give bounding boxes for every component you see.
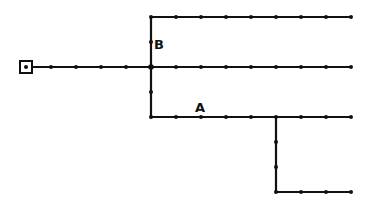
node-dot (274, 115, 278, 119)
node-dot (249, 15, 253, 19)
node-dot (199, 65, 203, 69)
node-dot (149, 90, 153, 94)
node-dot (324, 65, 328, 69)
node-dot (74, 65, 78, 69)
node-dot (274, 190, 278, 194)
node-dot (174, 65, 178, 69)
junction-node (148, 64, 154, 70)
node-dot (99, 65, 103, 69)
node-dot (349, 115, 353, 119)
start-dot (24, 65, 28, 69)
node-dot (274, 65, 278, 69)
node-dot (49, 65, 53, 69)
node-dot (224, 15, 228, 19)
node-dot (274, 140, 278, 144)
node-dot (199, 115, 203, 119)
node-dot (324, 15, 328, 19)
node-dot (249, 65, 253, 69)
node-dot (324, 190, 328, 194)
node-dot (349, 65, 353, 69)
node-dot (274, 165, 278, 169)
node-dot (299, 65, 303, 69)
nodes (24, 15, 353, 194)
node-dot (149, 115, 153, 119)
node-dot (324, 115, 328, 119)
node-dot (224, 65, 228, 69)
node-dot (199, 15, 203, 19)
start-marker (20, 61, 32, 73)
node-dot (349, 190, 353, 194)
node-dot (124, 65, 128, 69)
node-dot (149, 40, 153, 44)
label-a: A (195, 100, 205, 115)
node-dot (149, 15, 153, 19)
node-dot (299, 190, 303, 194)
node-dot (249, 115, 253, 119)
node-dot (174, 115, 178, 119)
labels: BA (154, 37, 205, 115)
node-dot (224, 115, 228, 119)
node-dot (299, 115, 303, 119)
segments (26, 17, 351, 192)
label-b: B (154, 37, 164, 52)
node-dot (349, 15, 353, 19)
node-dot (299, 15, 303, 19)
path-network-diagram: BA (0, 0, 370, 205)
node-dot (274, 15, 278, 19)
node-dot (174, 15, 178, 19)
